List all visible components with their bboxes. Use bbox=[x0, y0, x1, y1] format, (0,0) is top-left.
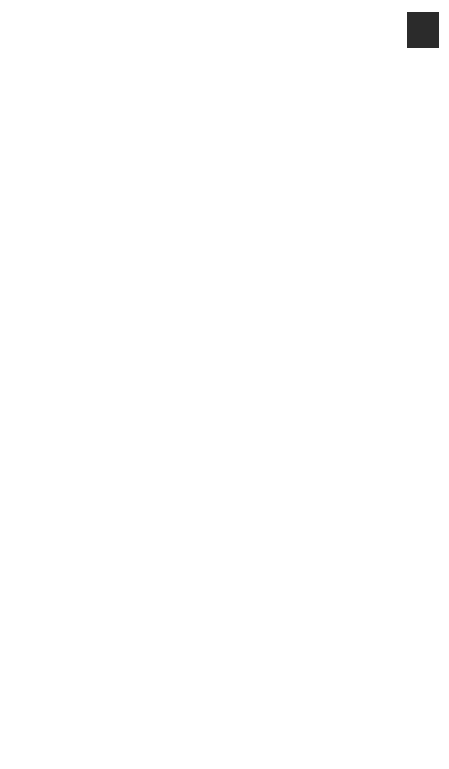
rink-diagram bbox=[0, 0, 449, 769]
